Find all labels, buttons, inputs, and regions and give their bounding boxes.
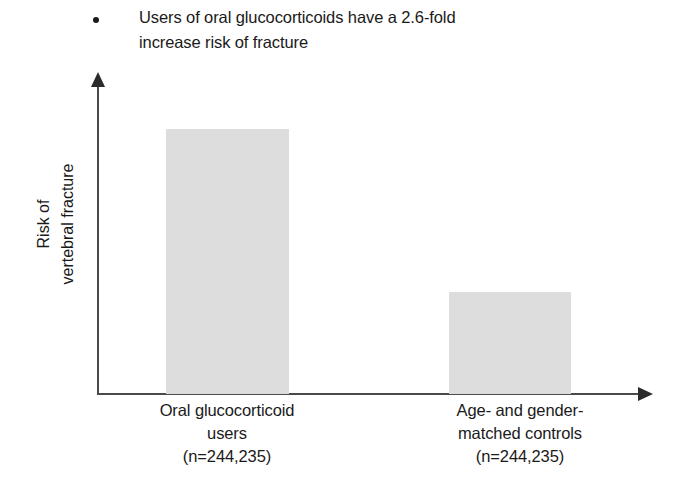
bar-chart: Risk of vertebral fracture Oral glucocor… [0,0,680,479]
bar-age-and-gender-matched-controls [449,292,571,394]
x-axis-label-age-and-gender-matched-controls: Age- and gender- matched controls (n=244… [400,399,640,468]
y-axis-title: Risk of vertebral fracture [32,124,80,324]
x-axis-label-oral-glucocorticoid-users: Oral glucocorticoid users (n=244,235) [107,399,347,468]
bar-oral-glucocorticoid-users [166,129,289,394]
y-axis-line [97,84,99,395]
x-axis-arrow-icon [638,387,653,401]
y-axis-arrow-icon [91,72,105,87]
